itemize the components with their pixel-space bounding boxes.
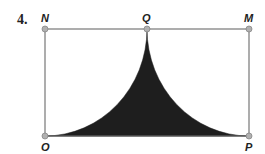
label-o: O [41, 141, 50, 153]
geometry-diagram: 4. N Q M O P [0, 0, 265, 154]
label-m: M [244, 12, 254, 24]
label-n: N [41, 12, 50, 24]
point-q [144, 26, 150, 32]
label-p: P [245, 141, 253, 153]
shaded-region [45, 29, 249, 136]
label-q: Q [142, 12, 151, 24]
point-m [246, 26, 252, 32]
problem-number: 4. [17, 12, 28, 27]
point-o [42, 133, 48, 139]
point-p [246, 133, 252, 139]
point-n [42, 26, 48, 32]
